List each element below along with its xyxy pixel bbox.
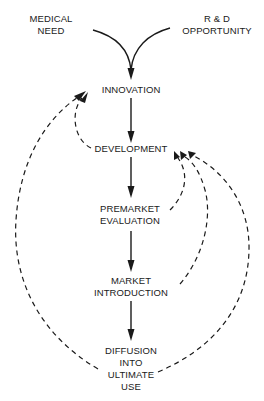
diagram-canvas: MEDICAL NEED R & D OPPORTUNITY INNOVATIO… <box>0 0 264 401</box>
node-premarket-evaluation: PREMARKET EVALUATION <box>100 203 160 227</box>
diagram-edges <box>0 0 264 401</box>
feedback-diffusion-to-innovation <box>16 97 98 369</box>
arrowhead-into-premarket <box>128 186 135 198</box>
node-development: DEVELOPMENT <box>95 143 168 155</box>
arrowhead-into-diffusion <box>128 329 135 341</box>
node-market-introduction: MARKET INTRODUCTION <box>94 275 168 299</box>
node-innovation: INNOVATION <box>102 84 161 96</box>
feedback-development-to-innovation <box>75 98 91 148</box>
feedback-diffusion-to-development <box>158 156 249 372</box>
node-medical-need: MEDICAL NEED <box>30 13 73 37</box>
node-rd-opportunity: R & D OPPORTUNITY <box>182 13 252 37</box>
node-diffusion-into-ultimate-use: DIFFUSION INTO ULTIMATE USE <box>105 345 157 393</box>
edge-medical-need-to-innovation <box>93 30 131 70</box>
feedback-premarket-to-development <box>170 158 185 210</box>
arrowhead-into-innovation <box>128 68 135 80</box>
arrowhead-feedback-diffusion-dev <box>188 151 196 159</box>
arrowhead-into-development <box>128 131 135 143</box>
arrowhead-into-market <box>128 260 135 272</box>
arrowhead-feedback-market-dev <box>180 151 187 160</box>
edge-rd-opportunity-to-innovation <box>131 28 170 70</box>
